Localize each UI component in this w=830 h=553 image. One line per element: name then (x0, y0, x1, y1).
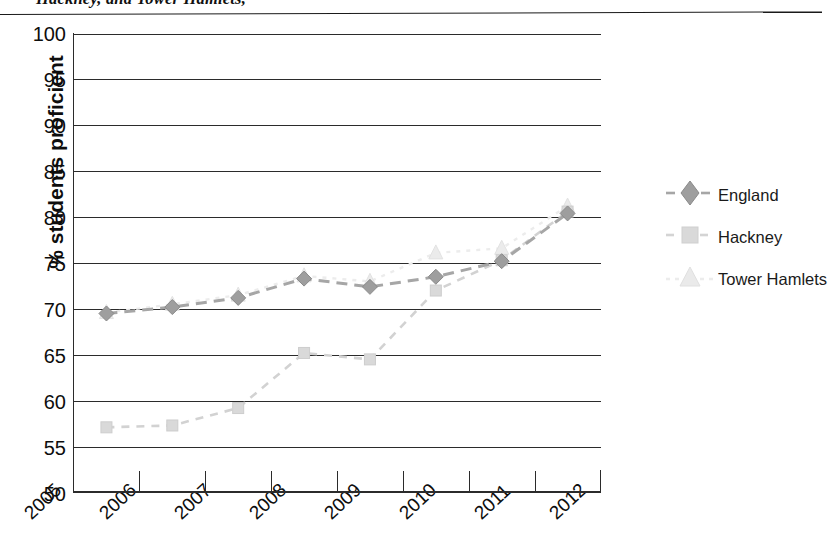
data-point-diamond (231, 290, 246, 305)
diamond-icon (666, 178, 714, 208)
data-point-diamond (297, 271, 312, 286)
chart-page: Hackney, and Tower Hamlets, % students p… (0, 0, 830, 553)
data-point-square (430, 285, 441, 296)
series-line (106, 212, 567, 428)
data-point-square (233, 403, 244, 414)
data-point-square (299, 347, 310, 358)
data-point-triangle (429, 245, 443, 259)
legend-label-tower-hamlets: Tower Hamlets (718, 270, 827, 289)
legend-label-england: England (718, 186, 779, 205)
data-series-layer (99, 198, 575, 433)
data-point-square (167, 420, 178, 431)
data-point-square (101, 422, 112, 433)
data-point-diamond (428, 269, 443, 284)
triangle-icon (666, 262, 714, 292)
legend-item-tower-hamlets[interactable]: Tower Hamlets (666, 262, 830, 304)
legend-item-hackney[interactable]: Hackney (666, 220, 830, 262)
x-tick-marks (140, 471, 536, 493)
data-point-square (364, 354, 375, 365)
legend-item-england[interactable]: England (666, 178, 830, 220)
gridlines (74, 35, 601, 448)
data-point-triangle (495, 240, 509, 254)
data-point-diamond (165, 300, 180, 315)
series-hackney (101, 206, 573, 433)
square-icon (666, 220, 714, 250)
chart-legend: England Hackney Tower Hamlets (666, 178, 830, 304)
legend-label-hackney: Hackney (718, 228, 782, 247)
